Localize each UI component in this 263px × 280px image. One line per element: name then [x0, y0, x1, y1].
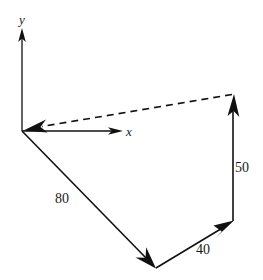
- y-axis-label: y: [17, 12, 25, 27]
- vector-40-magnitude-label: 40: [196, 242, 210, 257]
- x-axis-label: x: [125, 124, 132, 139]
- vector-diagram: y x 80 40 50: [0, 0, 263, 280]
- vector-80-magnitude-label: 80: [55, 191, 69, 206]
- figure-background: [0, 0, 263, 280]
- vector-50-magnitude-label: 50: [235, 160, 249, 175]
